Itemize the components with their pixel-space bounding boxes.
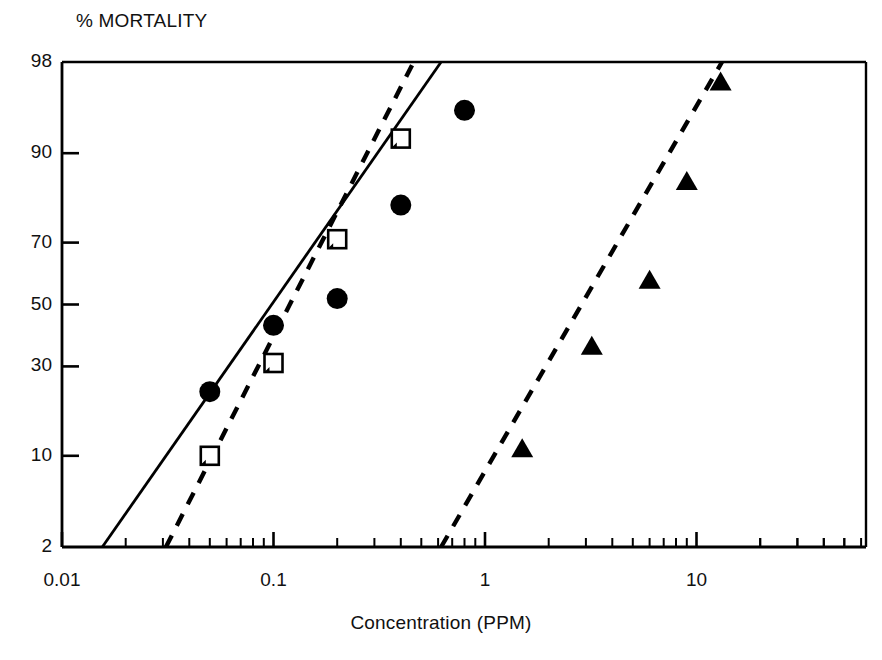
data-markers [199, 71, 731, 464]
x-axis-ticks [62, 532, 861, 547]
x-tick-label: 1 [440, 569, 530, 591]
dashed-fit-line [166, 62, 414, 547]
y-tick-label: 30 [6, 354, 52, 376]
filled-circle-marker [327, 288, 348, 309]
y-axis-ticks [62, 153, 79, 456]
axes-frame [62, 62, 866, 547]
probit-mortality-chart: % MORTALITY 9890705030102 0.010.1110 Con… [0, 0, 882, 660]
filled-triangle-marker [639, 270, 661, 289]
y-tick-label: 90 [6, 141, 52, 163]
filled-triangle-marker [511, 438, 533, 457]
filled-triangle-marker [581, 336, 603, 355]
x-tick-label: 0.1 [229, 569, 319, 591]
open-square-marker [201, 447, 219, 465]
filled-circle-marker [263, 315, 284, 336]
y-tick-label: 70 [6, 231, 52, 253]
x-axis-title: Concentration (PPM) [0, 612, 882, 634]
y-tick-label: 10 [6, 444, 52, 466]
filled-triangle-marker [676, 171, 698, 190]
y-tick-label: 50 [6, 293, 52, 315]
x-tick-label: 0.01 [17, 569, 107, 591]
filled-circle-marker [199, 381, 220, 402]
dashed-fit-line [441, 62, 722, 547]
plot-canvas [0, 0, 882, 660]
y-tick-label: 98 [6, 50, 52, 72]
fit-lines [102, 62, 722, 547]
filled-circle-marker [390, 195, 411, 216]
solid-fit-line [102, 62, 441, 547]
y-tick-label: 2 [6, 535, 52, 557]
x-tick-label: 10 [652, 569, 742, 591]
filled-circle-marker [454, 100, 475, 121]
